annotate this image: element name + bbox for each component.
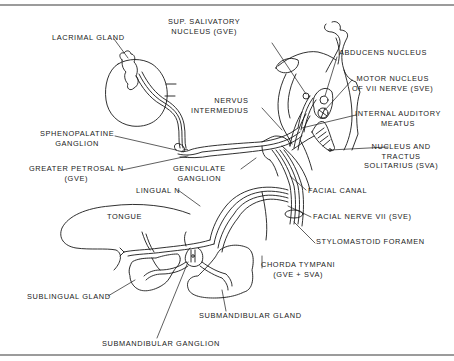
label-sublingual-gland: SUBLINGUAL GLAND: [27, 292, 111, 302]
label-internal-auditory-meatus: INTERNAL AUDITORY MEATUS: [355, 109, 441, 128]
label-text: FACIAL CANAL: [308, 186, 367, 196]
submandibular-ganglion-shape: [185, 248, 203, 267]
abducens-nucleus: [320, 96, 328, 104]
submandibular-gland-shape: [187, 245, 253, 298]
label-text: STYLOMASTOID FORAMEN: [316, 237, 425, 247]
label-motor-nucleus-vii: MOTOR NUCLEUS OF VII NERVE (SVE): [352, 74, 433, 93]
label-text: MOTOR NUCLEUS: [352, 74, 433, 84]
label-nervus-intermedius: NERVUS INTERMEDIUS: [191, 96, 249, 115]
label-text: LINGUAL N: [136, 186, 180, 196]
label-text: GANGLION: [40, 139, 114, 149]
sublingual-gland-shape: [129, 254, 180, 291]
label-sup-salivatory-nucleus: SUP. SALIVATORY NUCLEUS (GVE): [168, 17, 240, 36]
label-text: OF VII NERVE (SVE): [352, 84, 433, 94]
label-text: MEATUS: [355, 119, 441, 129]
label-text: INTERMEDIUS: [191, 106, 249, 116]
label-chorda-tympani: CHORDA TYMPANI (GVE + SVA): [261, 260, 335, 279]
label-stylomastoid-foramen: STYLOMASTOID FORAMEN: [316, 237, 425, 247]
label-facial-canal: FACIAL CANAL: [308, 186, 367, 196]
label-text: SUBLINGUAL GLAND: [27, 292, 111, 302]
label-nucleus-tractus-solitarius: NUCLEUS AND TRACTUS SOLITARIUS (SVA): [364, 142, 438, 171]
eye-globe: [106, 60, 177, 127]
label-text: TRACTUS: [364, 152, 438, 162]
label-text: SUBMANDIBULAR GANGLION: [102, 339, 220, 349]
label-text: FACIAL NERVE VII (SVE): [313, 212, 412, 222]
label-text: SUP. SALIVATORY: [168, 17, 240, 27]
label-facial-nerve-vii: FACIAL NERVE VII (SVE): [313, 212, 412, 222]
label-text: SUBMANDIBULAR GLAND: [199, 311, 302, 321]
label-text: NUCLEUS AND: [364, 142, 438, 152]
label-text: (GVE + SVA): [261, 270, 335, 280]
label-text: TONGUE: [107, 212, 142, 222]
label-text: INTERNAL AUDITORY: [355, 109, 441, 119]
diagram-frame: LACRIMAL GLAND SUP. SALIVATORY NUCLEUS (…: [0, 0, 454, 361]
label-text: (GVE): [29, 174, 124, 184]
label-geniculate-ganglion: GENICULATE GANGLION: [173, 164, 226, 183]
label-submandibular-gland: SUBMANDIBULAR GLAND: [199, 311, 302, 321]
label-text: GANGLION: [173, 174, 226, 184]
label-text: GREATER PETROSAL N: [29, 164, 124, 174]
label-text: SOLITARIUS (SVA): [364, 161, 438, 171]
label-abducens-nucleus: ABDUCENS NUCLEUS: [339, 48, 427, 58]
label-text: NUCLEUS (GVE): [168, 27, 240, 37]
label-greater-petrosal-n: GREATER PETROSAL N (GVE): [29, 164, 124, 183]
label-lingual-n: LINGUAL N: [136, 186, 180, 196]
label-lacrimal-gland: LACRIMAL GLAND: [52, 33, 125, 43]
label-text: GENICULATE: [173, 164, 226, 174]
brainstem-outline: [276, 21, 360, 150]
label-text: ABDUCENS NUCLEUS: [339, 48, 427, 58]
label-sphenopalatine-ganglion: SPHENOPALATINE GANGLION: [40, 129, 114, 148]
label-text: CHORDA TYMPANI: [261, 260, 335, 270]
label-text: NERVUS: [191, 96, 249, 106]
label-text: LACRIMAL GLAND: [52, 33, 125, 43]
label-submandibular-ganglion: SUBMANDIBULAR GANGLION: [102, 339, 220, 349]
label-tongue: TONGUE: [107, 212, 142, 222]
label-text: SPHENOPALATINE: [40, 129, 114, 139]
lacrimal-gland-shape: [120, 51, 138, 90]
